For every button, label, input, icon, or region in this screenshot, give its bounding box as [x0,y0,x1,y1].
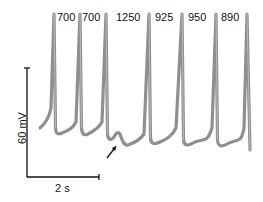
voltage-trace-figure [0,0,263,202]
isi-label-5: 950 [188,11,206,23]
isi-label-3: 1250 [116,11,140,23]
isi-label-6: 890 [221,11,239,23]
scale-bars [24,68,99,180]
isi-label-2: 700 [82,11,100,23]
isi-label-4: 925 [155,11,173,23]
arrow-annotation-icon [107,146,117,159]
isi-label-1: 700 [57,11,75,23]
membrane-voltage-trace [40,14,250,150]
voltage-scale-label: 60 mV [16,112,28,144]
time-scale-label: 2 s [55,182,70,194]
